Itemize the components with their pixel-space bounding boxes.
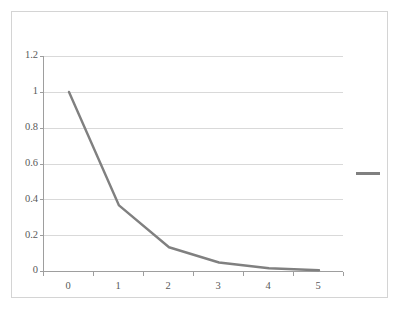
x-axis-tick-label: 4	[265, 281, 270, 292]
x-axis-tick-label: 1	[115, 281, 120, 292]
chart-legend	[350, 160, 390, 186]
legend-line-swatch	[356, 172, 380, 175]
x-axis-tick-label: 5	[315, 281, 320, 292]
x-axis-tick-label: 2	[165, 281, 170, 292]
x-axis-tick-label: 3	[215, 281, 220, 292]
x-axis-label-group: 0 1 2 3 4 5	[0, 0, 399, 312]
x-axis-tick-label: 0	[65, 281, 70, 292]
